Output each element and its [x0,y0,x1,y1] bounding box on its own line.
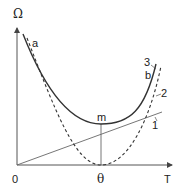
curve-label-a: a [32,38,38,49]
theta-label: θ [97,173,104,185]
x-axis-label: T [164,174,171,185]
line-1 [17,112,162,165]
curve-label-1: 1 [152,120,158,131]
dashed-curve-2 [27,38,161,165]
point-m-label: m [97,112,106,123]
solid-curve-3 [23,34,156,124]
curve-label-2: 2 [161,88,167,99]
y-axis-label: Ω [13,8,23,20]
origin-label: 0 [12,174,18,185]
omega-temperature-diagram: Ω T 0 θ m a 3 b 2 1 [0,0,182,189]
diagram-canvas [0,0,182,189]
curve-label-3: 3 [144,57,150,68]
curve-label-b: b [145,70,151,81]
